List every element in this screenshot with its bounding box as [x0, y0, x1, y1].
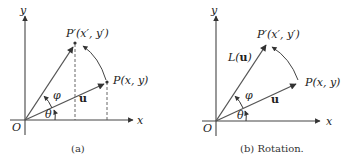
- y-axis-label-b: y: [210, 4, 218, 17]
- p-label-a: P(x, y): [112, 74, 148, 87]
- caption-b: (b) Rotation.: [240, 143, 304, 154]
- rotation-arc-b: [272, 47, 298, 80]
- x-axis-label-a: x: [137, 114, 144, 127]
- theta-label-a: θ: [45, 108, 52, 121]
- phi-label-a: φ: [53, 89, 61, 102]
- theta-label-b: θ: [237, 109, 244, 122]
- theta-angle-arc-b: [245, 111, 246, 121]
- point-p-prime-a: [73, 41, 76, 44]
- panel-a: y x O P′(x′, y′) P(x, y) u φ θ (a): [10, 4, 148, 154]
- p-prime-label-b: P′(x′, y′): [256, 28, 300, 41]
- x-axis-label-b: x: [326, 115, 333, 128]
- rotation-arc-a: [83, 46, 106, 80]
- u-label-b: u: [271, 93, 279, 106]
- u-label-a: u: [79, 92, 87, 105]
- phi-angle-arc-b: [235, 96, 243, 108]
- l-u-label-b: L(u): [227, 51, 252, 64]
- caption-a: (a): [71, 143, 85, 154]
- point-p-a: [105, 80, 108, 83]
- origin-label-b: O: [203, 122, 212, 135]
- y-axis-label-a: y: [19, 4, 27, 17]
- p-prime-label-a: P′(x′, y′): [65, 27, 109, 40]
- rotation-diagram: y x O P′(x′, y′) P(x, y) u φ θ (a) y x O…: [0, 0, 353, 165]
- l-u-bold-u: u: [240, 51, 248, 64]
- phi-angle-arc-a: [44, 96, 52, 108]
- panel-b: y x O P′(x′, y′) P(x, y) L(u) u φ θ (b) …: [202, 4, 340, 154]
- theta-angle-arc-a: [54, 110, 55, 120]
- phi-label-b: φ: [245, 89, 253, 102]
- p-label-b: P(x, y): [304, 76, 340, 89]
- origin-label-a: O: [12, 121, 21, 134]
